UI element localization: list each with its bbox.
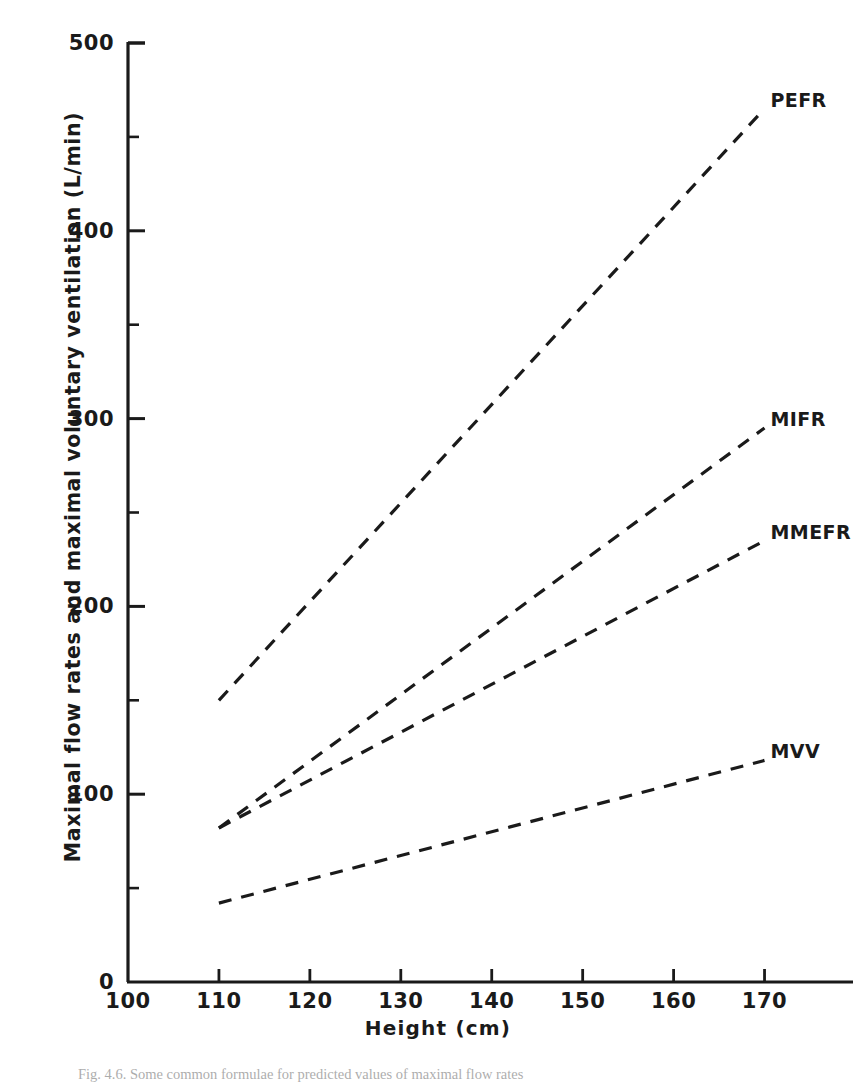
series-label-mifr: MIFR <box>771 408 826 430</box>
figure-caption: Fig. 4.6. Some common formulae for predi… <box>78 1066 818 1082</box>
series-label-mmefr: MMEFR <box>771 521 851 543</box>
plot-area <box>0 0 861 1082</box>
series-label-mvv: MVV <box>771 740 821 762</box>
series-label-pefr: PEFR <box>771 89 827 111</box>
figure-panel: Maximal flow rates and maximal voluntary… <box>0 0 861 1082</box>
series-line-pefr <box>219 109 765 701</box>
series-line-mmefr <box>219 541 765 828</box>
series-line-mvv <box>219 760 765 903</box>
series-line-mifr <box>219 428 765 828</box>
